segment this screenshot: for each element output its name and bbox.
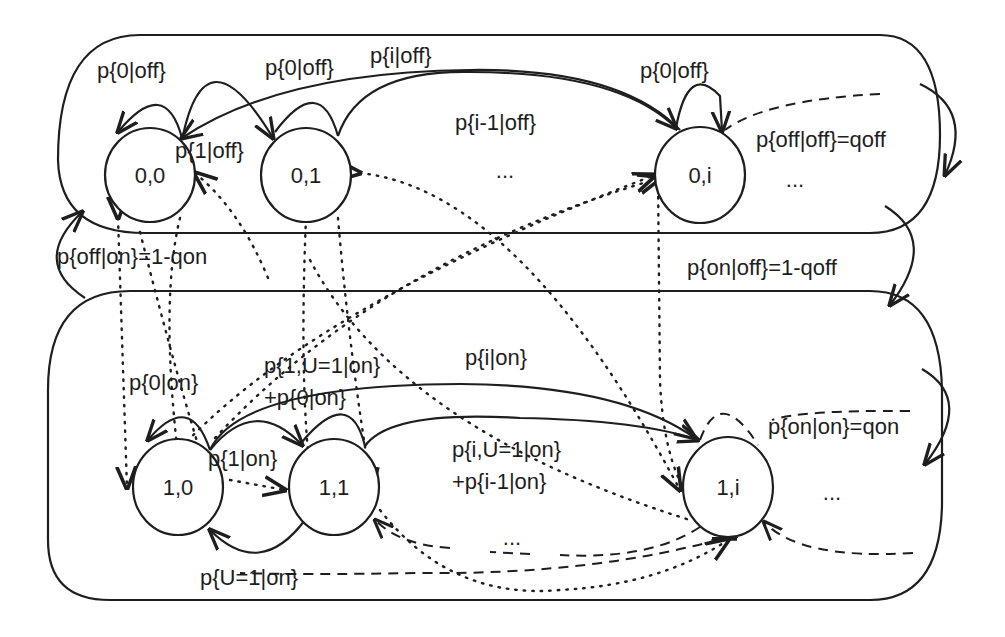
ellipsis-top-right: ... xyxy=(786,167,804,192)
label-pion: p{i|on} xyxy=(465,345,527,370)
label-pioff: p{i|off} xyxy=(370,43,432,68)
label-ponon: p{on|on}=qon xyxy=(768,414,899,439)
edge-00-to-01 xyxy=(182,82,273,140)
edge-dashed-right-1i xyxy=(764,522,913,554)
edge-11-to-10 xyxy=(210,520,305,553)
label-p0on: p{0|on} xyxy=(129,370,198,395)
node-label: 0,0 xyxy=(135,163,166,188)
node-label: 0,1 xyxy=(291,163,322,188)
node-0-i[interactable]: 0,i xyxy=(655,127,745,223)
label-p0off-self00: p{0|off} xyxy=(97,58,166,83)
label-p1off: p{1|off} xyxy=(175,138,244,163)
ellipsis-bottom-middle: ... xyxy=(503,525,521,550)
dotted-10-to-11 xyxy=(230,480,285,490)
dotted-01-a xyxy=(303,218,308,452)
edge-dashed-1i-to-11 xyxy=(375,520,700,556)
label-pim1off: p{i-1|off} xyxy=(455,110,536,135)
node-label: 1,1 xyxy=(319,475,350,500)
node-1-1[interactable]: 1,1 xyxy=(289,439,379,535)
ellipsis-top-middle: ... xyxy=(496,158,514,183)
edge-0i-to-00 xyxy=(182,70,680,138)
node-0-1[interactable]: 0,1 xyxy=(261,128,351,222)
dotted-bottom-arc xyxy=(380,510,728,591)
markov-state-diagram: 0,0 0,1 0,i 1,0 1,1 1,i ... ... ... ... … xyxy=(0,0,1005,637)
node-1-i[interactable]: 1,i xyxy=(683,437,773,537)
node-label: 1,i xyxy=(716,475,739,500)
label-p1on: p{1|on} xyxy=(208,446,277,471)
label-piU1on-line1: p{i,U=1|on} xyxy=(452,437,561,462)
label-p0off-00-to-01: p{0|off} xyxy=(265,55,334,80)
label-pU1on: p{U=1|on} xyxy=(200,565,298,590)
label-p0off-self0i: p{0|off} xyxy=(640,58,709,83)
label-p1U1on-line2: +p{0|on} xyxy=(264,385,346,410)
edge-dashed-into-0i xyxy=(725,94,880,130)
label-poffon: p{off|on}=1-qon xyxy=(57,244,207,269)
label-poffoff: p{off|off}=qoff xyxy=(756,127,887,152)
edge-0i-self xyxy=(676,84,722,131)
ellipsis-bottom-right: ... xyxy=(823,480,841,505)
label-ponoff: p{on|off}=1-qoff xyxy=(687,255,838,280)
node-label: 1,0 xyxy=(163,475,194,500)
label-p1U1on-line1: p{1,U=1|on} xyxy=(264,353,380,378)
node-label: 0,i xyxy=(688,163,711,188)
edge-dashed-to-10 xyxy=(240,535,735,574)
edge-on-on-loop xyxy=(922,369,949,464)
label-piU1on-line2: +p{i-1|on} xyxy=(452,469,546,494)
